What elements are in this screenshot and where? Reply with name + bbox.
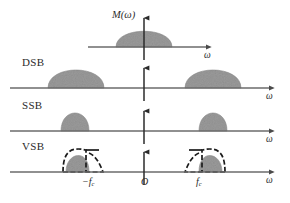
modulation-spectra-figure: M(ω) ω DSB ω SSB ω VSB ω −fc O fc (0, 0, 290, 203)
dsb-lower-dome-spectrum (48, 70, 104, 88)
row-vsb (10, 149, 269, 172)
spectra-diagram-canvas (0, 0, 290, 203)
row-label-dsb: DSB (22, 56, 44, 68)
omega-axis-label-vsb: ω (266, 175, 273, 185)
row-ssb (10, 113, 269, 131)
dsb-upper-dome-spectrum (185, 70, 241, 88)
tick-label-origin-text: O (141, 176, 148, 187)
ssb-lower-sideband-spectrum (61, 113, 89, 131)
tick-label-positive-carrier: fc (196, 176, 202, 187)
omega-axis-label-baseband: ω (204, 50, 211, 60)
omega-axis-label-ssb: ω (266, 134, 273, 144)
tick-label-negative-carrier-subscript: c (92, 180, 95, 187)
tick-label-negative-carrier-text: −f (82, 176, 92, 187)
row-baseband (88, 31, 206, 47)
row-label-ssb: SSB (22, 99, 42, 111)
baseband-function-label: M(ω) (112, 9, 135, 20)
omega-axis-label-dsb: ω (266, 91, 273, 101)
ssb-upper-sideband-spectrum (199, 113, 227, 131)
tick-label-negative-carrier: −fc (82, 176, 94, 187)
row-dsb (10, 70, 269, 88)
row-label-vsb: VSB (22, 140, 44, 152)
tick-label-origin: O (141, 176, 148, 187)
tick-label-positive-carrier-subscript: c (199, 180, 202, 187)
